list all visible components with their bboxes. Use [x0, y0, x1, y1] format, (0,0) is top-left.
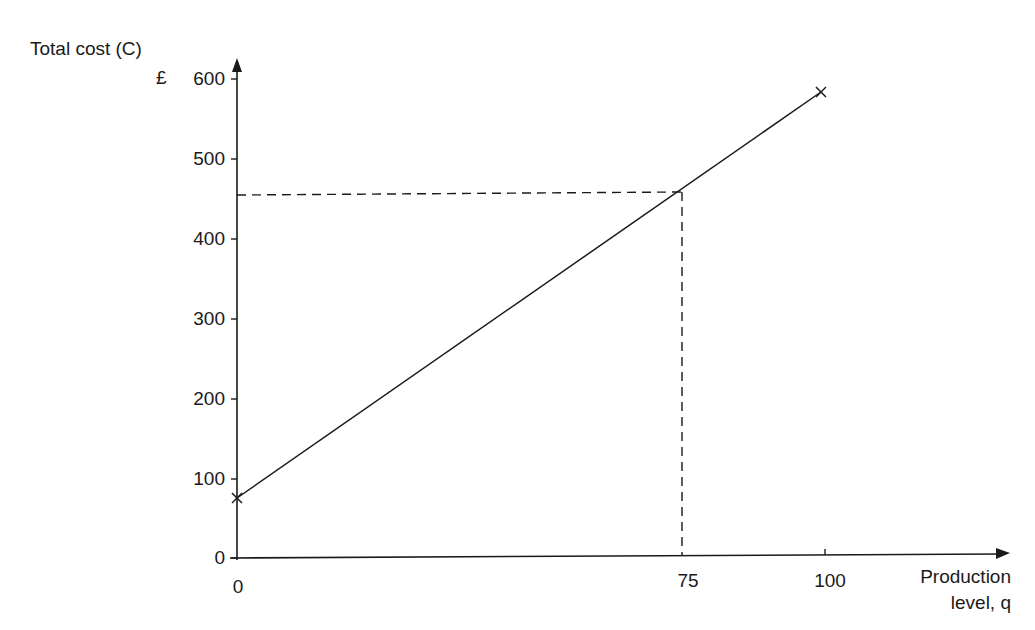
y-axis-arrow-icon	[232, 58, 242, 72]
marker-x-end-icon	[816, 87, 826, 97]
x-tick-label: 100	[800, 570, 860, 592]
y-tick-label: 0	[165, 547, 225, 569]
total-cost-line	[237, 92, 821, 498]
y-tick-label: 300	[165, 308, 225, 330]
chart-canvas	[0, 0, 1035, 630]
x-axis	[230, 554, 1000, 558]
x-axis-title-line2: level, q	[951, 592, 1011, 614]
y-ticks	[231, 79, 237, 558]
y-tick-label: 100	[165, 468, 225, 490]
y-tick-label: 400	[165, 228, 225, 250]
x-axis-arrow-icon	[996, 548, 1010, 559]
y-axis-title: Total cost (C)	[30, 38, 142, 60]
y-tick-label: 200	[165, 388, 225, 410]
y-tick-label: 600	[165, 68, 225, 90]
x-axis-title-line1: Production	[920, 566, 1011, 588]
y-tick-label: 500	[165, 148, 225, 170]
x-tick-label: 0	[208, 576, 268, 598]
dashed-guide-horizontal	[237, 192, 681, 195]
x-tick-label: 75	[658, 570, 718, 592]
